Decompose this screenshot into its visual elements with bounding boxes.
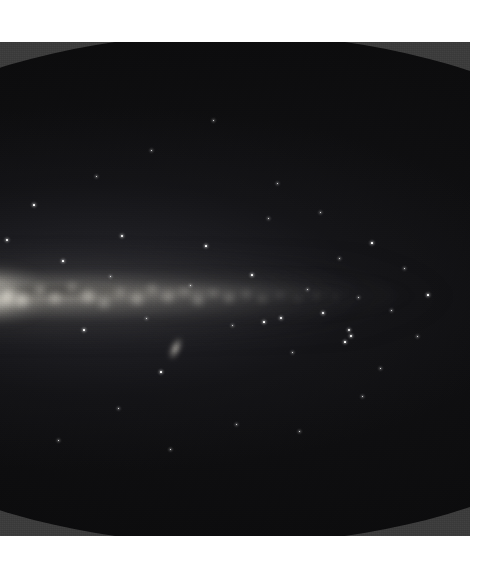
star-point-source xyxy=(251,274,252,275)
emission-knot xyxy=(189,294,207,306)
star-point-source xyxy=(280,317,282,319)
all-sky-map-figure xyxy=(0,42,470,536)
emission-knot xyxy=(127,292,148,306)
star-point-source xyxy=(307,289,308,290)
emission-knot xyxy=(159,291,177,303)
star-point-source xyxy=(62,260,63,261)
star-point-source xyxy=(299,431,300,432)
star-point-source xyxy=(348,329,350,331)
star-point-source xyxy=(339,258,340,259)
star-point-source xyxy=(213,120,214,121)
star-point-source xyxy=(292,352,293,353)
star-point-source xyxy=(404,268,405,269)
star-point-source xyxy=(277,183,278,184)
star-point-source xyxy=(33,204,34,205)
star-point-source xyxy=(58,440,59,441)
star-point-source xyxy=(391,310,392,311)
star-point-source xyxy=(320,212,321,213)
star-point-source xyxy=(83,329,84,330)
star-point-source xyxy=(160,371,161,372)
star-point-source xyxy=(170,449,171,450)
emission-knot xyxy=(207,289,220,298)
star-point-source xyxy=(6,239,7,240)
emission-knot xyxy=(112,287,128,297)
star-point-source xyxy=(417,336,418,337)
star-point-source xyxy=(427,294,428,295)
emission-knot xyxy=(178,287,191,296)
page-margin-top xyxy=(0,0,500,42)
star-point-source xyxy=(110,276,111,277)
star-point-source xyxy=(146,318,147,319)
star-point-source xyxy=(358,297,359,298)
emission-knot xyxy=(256,295,269,304)
emission-knot xyxy=(221,293,237,303)
star-point-source xyxy=(344,341,345,342)
star-point-source xyxy=(263,321,264,322)
star-point-source xyxy=(322,312,324,314)
emission-knot xyxy=(95,297,113,309)
emission-knot xyxy=(45,291,66,305)
page-margin-bottom xyxy=(0,536,500,569)
star-point-source xyxy=(236,424,237,425)
page-margin-right xyxy=(470,0,500,569)
star-point-source xyxy=(96,176,97,177)
emission-knot xyxy=(10,292,33,307)
star-point-source xyxy=(190,285,191,286)
star-point-source xyxy=(205,245,206,246)
star-point-source xyxy=(121,235,122,236)
figure-page xyxy=(0,0,500,569)
emission-knot xyxy=(240,290,253,299)
star-point-source xyxy=(362,396,363,397)
mollweide-sky-ellipse xyxy=(0,42,470,536)
star-point-source xyxy=(151,150,152,151)
star-point-source xyxy=(371,242,372,243)
star-point-source xyxy=(380,368,381,369)
emission-knot xyxy=(332,295,340,300)
star-point-source xyxy=(350,335,351,336)
star-point-source xyxy=(232,325,233,326)
emission-knot xyxy=(144,284,160,294)
star-point-source xyxy=(268,218,269,219)
star-point-source xyxy=(118,408,119,409)
